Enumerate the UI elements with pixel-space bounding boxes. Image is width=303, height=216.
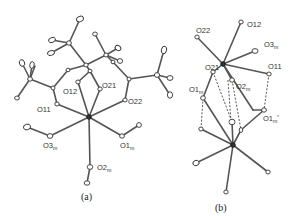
atom-a-o11	[55, 102, 59, 106]
label-b-o11: O11	[268, 62, 282, 71]
atom-b-o11	[267, 72, 271, 76]
label-a-o21: O21	[102, 81, 116, 90]
atom-b-o3m	[252, 49, 258, 54]
label-a-o2m: O2m	[97, 163, 111, 173]
label-b-o21: O21	[205, 63, 219, 72]
panel-a-metal-bonds	[50, 82, 125, 167]
metal-center-b-lower	[231, 143, 236, 148]
metal-center-a	[87, 115, 92, 120]
panel-b-structure	[192, 20, 271, 194]
label-a-o1m: O1m	[120, 141, 134, 151]
panel-b-caption: (b)	[215, 202, 227, 214]
label-a-o12: O12	[63, 87, 77, 96]
label-b-o1m-prime: O1m′	[263, 113, 279, 124]
atom-b-o1m	[201, 96, 206, 100]
panel-a-carbon-atoms	[15, 15, 173, 185]
panel-b-lower-metal-bonds	[196, 122, 268, 192]
panel-b-atoms	[192, 20, 271, 194]
panel-a-structure	[15, 15, 173, 185]
label-b-o1m: O1m	[189, 85, 203, 95]
atom-b-o12	[239, 20, 243, 24]
panel-b-labels: O12 O22 O3m O21 O11 O1m O2m O1m′ (b)	[189, 20, 282, 214]
metal-center-b-upper	[221, 62, 226, 67]
molecular-structure-figure: O11 O12 O21 O22 O3m O1m O2m (a)	[0, 0, 303, 216]
atom-a-o22	[123, 98, 127, 102]
atom-b-o22	[195, 35, 199, 39]
atom-a-o3m	[47, 134, 53, 139]
atom-a-o12	[76, 80, 80, 84]
panel-a-caption: (a)	[81, 191, 92, 203]
label-a-o11: O11	[37, 105, 51, 114]
label-a-o22: O22	[128, 97, 142, 106]
panel-a-oxygen-atoms	[47, 80, 127, 169]
label-b-o3m: O3m	[264, 40, 278, 50]
panel-a-ligand-bonds	[17, 19, 170, 104]
label-b-o2m: O2m	[236, 82, 250, 92]
label-b-o22: O22	[196, 26, 210, 35]
atom-a-o1m	[120, 134, 125, 138]
atom-b-o1m-prime	[262, 108, 267, 112]
label-b-o12: O12	[247, 20, 261, 29]
atom-b-o2m	[230, 78, 235, 82]
label-a-o3m: O3m	[43, 141, 57, 151]
